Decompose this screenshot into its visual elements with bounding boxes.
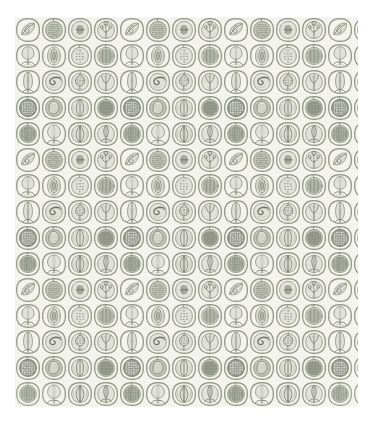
pattern-tile-flowering-shrub bbox=[197, 17, 223, 43]
pattern-tile-segmented-fruit bbox=[171, 251, 197, 277]
pattern-tile-seed-pod-upright bbox=[119, 199, 145, 225]
pattern-tile-crosshatch-fruit bbox=[93, 225, 119, 251]
pattern-tile-leafy-tulip bbox=[41, 251, 67, 277]
pattern-tile-split-pod-vertical bbox=[67, 95, 93, 121]
pattern-tile-textured-gourd bbox=[327, 121, 353, 147]
pattern-tile-flowering-shrub bbox=[93, 147, 119, 173]
pattern-tile-seed-pod-upright bbox=[223, 329, 249, 355]
pattern-tile-segmented-fruit bbox=[171, 121, 197, 147]
pattern-tile-bare-branches bbox=[93, 199, 119, 225]
pattern-tile-berry-cluster bbox=[67, 199, 93, 225]
pattern-tile-seed-burst bbox=[171, 277, 197, 303]
pattern-tile-berry-cluster bbox=[275, 69, 301, 95]
pattern-tile-leaf-swirl bbox=[327, 17, 353, 43]
pattern-tile-tulip-spray bbox=[119, 173, 145, 199]
pattern-tile-grain-stalk bbox=[93, 251, 119, 277]
pattern-field bbox=[15, 17, 358, 407]
pattern-tile-tulip-spray bbox=[15, 173, 41, 199]
pattern-tile-ribbed-melon bbox=[301, 43, 327, 69]
pattern-tile-dark-berry bbox=[223, 225, 249, 251]
pattern-tile-ribbed-melon bbox=[197, 43, 223, 69]
pattern-tile-split-fruit bbox=[249, 303, 275, 329]
pattern-tile-curled-tendril bbox=[145, 329, 171, 355]
pattern-tile-split-pod-vertical bbox=[171, 95, 197, 121]
pattern-tile-flowering-shrub bbox=[197, 277, 223, 303]
pattern-tile-ribbed-melon bbox=[301, 173, 327, 199]
pattern-tile-ribbed-melon bbox=[301, 303, 327, 329]
pattern-tile-crosshatch-fruit bbox=[93, 95, 119, 121]
pattern-tile-shaded-fruit bbox=[145, 355, 171, 381]
pattern-tile-crosshatch-fruit bbox=[301, 95, 327, 121]
pattern-tile-split-fruit bbox=[41, 43, 67, 69]
pattern-tile-grain-stalk bbox=[93, 121, 119, 147]
pattern-tile-grain-stalk bbox=[197, 381, 223, 407]
pattern-tile-segmented-fruit bbox=[67, 251, 93, 277]
pattern-tile-shaded-fruit bbox=[41, 225, 67, 251]
pattern-tile-bare-branches bbox=[197, 69, 223, 95]
pattern-tile-leaf-swirl bbox=[223, 17, 249, 43]
pattern-tile-segmented-fruit bbox=[275, 251, 301, 277]
pattern-tile-curled-tendril bbox=[41, 199, 67, 225]
pattern-tile-flowering-shrub bbox=[301, 147, 327, 173]
pattern-tile-textured-gourd bbox=[15, 251, 41, 277]
pattern-tile-split-pod-vertical bbox=[171, 225, 197, 251]
pattern-tile-leaf-swirl bbox=[15, 277, 41, 303]
pattern-tile-tulip-spray bbox=[15, 43, 41, 69]
pattern-tile-berry-cluster bbox=[171, 329, 197, 355]
pattern-tile-dark-berry bbox=[15, 355, 41, 381]
pattern-tile-curled-tendril bbox=[353, 329, 358, 355]
pattern-tile-leaf-swirl bbox=[119, 147, 145, 173]
pattern-tile-split-fruit bbox=[353, 43, 358, 69]
pattern-tile-seed-burst bbox=[171, 147, 197, 173]
pattern-tile-leaf-swirl bbox=[223, 147, 249, 173]
pattern-tile-segmented-fruit bbox=[67, 381, 93, 407]
pattern-tile-textured-gourd bbox=[15, 381, 41, 407]
pattern-tile-ribbed-melon bbox=[197, 173, 223, 199]
pattern-tile-segmented-fruit bbox=[275, 121, 301, 147]
pattern-tile-split-fruit bbox=[249, 43, 275, 69]
pattern-tile-dark-berry bbox=[327, 95, 353, 121]
pattern-tile-split-pod-vertical bbox=[275, 355, 301, 381]
pattern-tile-crosshatch-fruit bbox=[301, 225, 327, 251]
pattern-tile-textured-gourd bbox=[223, 381, 249, 407]
pattern-tile-crosshatch-fruit bbox=[197, 95, 223, 121]
pattern-tile-seed-pod-upright bbox=[15, 329, 41, 355]
pattern-tile-curled-tendril bbox=[249, 69, 275, 95]
pattern-tile-shaded-fruit bbox=[353, 355, 358, 381]
pattern-tile-bare-branches bbox=[93, 69, 119, 95]
pattern-tile-flowering-shrub bbox=[197, 147, 223, 173]
pattern-tile-shaded-fruit bbox=[145, 95, 171, 121]
pattern-tile-segmented-fruit bbox=[171, 381, 197, 407]
pattern-tile-shaded-fruit bbox=[41, 95, 67, 121]
pattern-tile-leafy-tulip bbox=[353, 251, 358, 277]
pattern-tile-dark-berry bbox=[327, 355, 353, 381]
pattern-tile-crosshatch-fruit bbox=[301, 355, 327, 381]
pattern-tile-dotted-grid-fruit bbox=[41, 147, 67, 173]
pattern-tile-tulip-spray bbox=[223, 303, 249, 329]
pattern-tile-crosshatch-fruit bbox=[197, 225, 223, 251]
pattern-tile-ribbed-melon bbox=[197, 303, 223, 329]
pattern-tile-speckled-pod bbox=[171, 43, 197, 69]
pattern-tile-seed-pod-upright bbox=[327, 199, 353, 225]
pattern-tile-leaf-swirl bbox=[119, 277, 145, 303]
pattern-tile-textured-gourd bbox=[327, 251, 353, 277]
pattern-tile-curled-tendril bbox=[145, 69, 171, 95]
pattern-tile-berry-cluster bbox=[67, 69, 93, 95]
pattern-tile-grain-stalk bbox=[301, 381, 327, 407]
pattern-tile-dark-berry bbox=[223, 355, 249, 381]
pattern-tile-leafy-tulip bbox=[249, 381, 275, 407]
pattern-tile-dotted-grid-fruit bbox=[145, 147, 171, 173]
pattern-tile-split-fruit bbox=[145, 303, 171, 329]
pattern-tile-leaf-swirl bbox=[119, 17, 145, 43]
pattern-tile-grain-stalk bbox=[301, 251, 327, 277]
pattern-tile-speckled-pod bbox=[275, 173, 301, 199]
pattern-tile-speckled-pod bbox=[67, 173, 93, 199]
pattern-tile-seed-pod-upright bbox=[327, 329, 353, 355]
pattern-tile-leafy-tulip bbox=[145, 121, 171, 147]
pattern-tile-bare-branches bbox=[301, 329, 327, 355]
pattern-tile-leafy-tulip bbox=[353, 121, 358, 147]
pattern-tile-split-pod-vertical bbox=[67, 225, 93, 251]
pattern-tile-textured-gourd bbox=[223, 251, 249, 277]
pattern-tile-dark-berry bbox=[119, 355, 145, 381]
pattern-tile-speckled-pod bbox=[67, 303, 93, 329]
